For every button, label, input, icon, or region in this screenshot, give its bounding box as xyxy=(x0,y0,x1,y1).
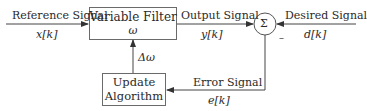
output-signal-symbol: y[k] xyxy=(201,29,222,40)
update-algorithm-line1: Update xyxy=(102,76,166,89)
update-delta-omega-label: Δω xyxy=(138,52,155,63)
reference-signal-symbol: x[k] xyxy=(36,29,57,40)
error-signal-symbol: e[k] xyxy=(208,95,230,106)
desired-signal-label: Desired Signal xyxy=(285,10,367,21)
summer-sigma-symbol: Σ xyxy=(260,18,268,29)
variable-filter-param: ω xyxy=(89,25,177,38)
output-signal-label: Output Signal xyxy=(181,10,259,21)
desired-signal-symbol: d[k] xyxy=(304,29,326,40)
error-signal-label: Error Signal xyxy=(193,77,262,88)
summer-minus-sign: – xyxy=(279,33,284,43)
update-algorithm-line2: Algorithm xyxy=(102,90,166,103)
reference-signal-label: Reference Signal xyxy=(12,10,108,21)
